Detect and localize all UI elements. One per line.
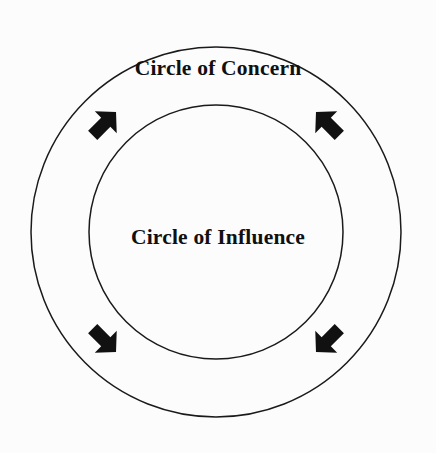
arrow-head-icon xyxy=(82,101,127,146)
arrow-head-icon xyxy=(82,318,127,363)
arrow-head-icon xyxy=(305,318,350,363)
outer-circle-label: Circle of Concern xyxy=(0,58,436,80)
arrow-top-right xyxy=(305,101,350,146)
arrow-head-icon xyxy=(305,101,350,146)
inner-circle-label: Circle of Influence xyxy=(0,227,436,249)
arrow-bottom-right xyxy=(305,318,350,363)
circles-diagram: Circle of Concern Circle of Influence xyxy=(0,0,436,453)
arrow-bottom-left xyxy=(82,318,127,363)
arrow-top-left xyxy=(82,101,127,146)
